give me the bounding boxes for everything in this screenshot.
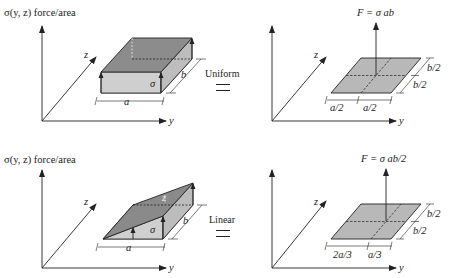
dim-two-thirds-a: 2a/3: [333, 250, 352, 261]
stress-label: σ: [150, 79, 155, 90]
y-axis-label: y: [169, 116, 174, 127]
source-title-uniform: σ(y, z) force/area: [4, 8, 76, 19]
top-face-label: z: [162, 193, 166, 204]
z-axis-label: z: [314, 50, 318, 61]
uniform-equivalent-diagram: [272, 23, 434, 121]
dim-a-label: a: [124, 97, 129, 108]
z-axis-label: z: [84, 50, 88, 61]
dim-b-half-front: b/2: [413, 226, 426, 237]
dim-a-half-left: a/2: [330, 103, 343, 114]
dim-a-label: a: [126, 243, 131, 254]
linear-equivalent-diagram: [272, 169, 434, 268]
dim-a-half-right: a/2: [363, 103, 376, 114]
dim-one-third-a: a/3: [368, 250, 381, 261]
dim-b-label: b: [181, 70, 186, 81]
z-axis-label: z: [314, 197, 318, 208]
y-axis-label: y: [169, 263, 174, 274]
dim-b-half-back: b/2: [427, 63, 440, 74]
dim-b-half-back: b/2: [427, 209, 440, 220]
dim-b-label: b: [183, 216, 188, 227]
z-axis: [42, 57, 96, 121]
dim-b-half-front: b/2: [413, 80, 426, 91]
relation-label-uniform: Uniform: [205, 69, 239, 79]
source-title-linear: σ(y, z) force/area: [4, 155, 76, 166]
z-axis-label: z: [84, 197, 88, 208]
y-axis-label: y: [399, 263, 404, 274]
equals-sign: [216, 230, 230, 237]
force-label-uniform: F = σ ab: [357, 8, 394, 19]
equals-sign: [216, 84, 230, 91]
relation-label-linear: Linear: [209, 215, 235, 225]
force-label-linear: F = σ ab/2: [361, 154, 406, 165]
stress-label: σ: [150, 225, 155, 236]
y-axis-label: y: [399, 116, 404, 127]
